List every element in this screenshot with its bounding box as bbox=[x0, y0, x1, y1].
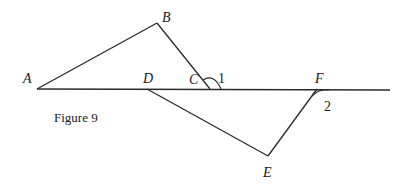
segment-ab bbox=[37, 23, 157, 89]
label-c: C bbox=[189, 72, 199, 87]
figure-caption: Figure 9 bbox=[54, 110, 98, 125]
line-through-a-d-c-f bbox=[37, 89, 390, 90]
label-f: F bbox=[314, 71, 324, 86]
label-e: E bbox=[262, 165, 272, 180]
segment-bc bbox=[157, 23, 210, 89]
label-d: D bbox=[142, 71, 153, 86]
segment-ef bbox=[268, 89, 317, 156]
angle-2-label: 2 bbox=[324, 99, 331, 114]
label-b: B bbox=[162, 10, 171, 25]
segment-de bbox=[147, 89, 268, 156]
angle-1-label: 1 bbox=[218, 71, 225, 86]
geometry-figure: A B C D E F 1 2 Figure 9 bbox=[0, 0, 410, 186]
label-a: A bbox=[22, 71, 32, 86]
